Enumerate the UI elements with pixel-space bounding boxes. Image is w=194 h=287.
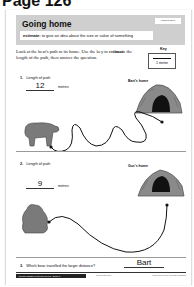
footer-publisher: www.prim-ed.com Prim-Ed Publishing	[153, 274, 186, 276]
question-2-units: metres	[58, 184, 69, 188]
section-divider	[16, 151, 186, 152]
question-number: 3.	[20, 264, 23, 268]
series-badge: HIGHER ORDER THINKING SKILLS - BOOK 2	[16, 274, 86, 278]
instructions: Look at the bear's path to its home. Use…	[16, 49, 136, 61]
question-prompt: Length of path	[26, 76, 50, 80]
page-label: Page 126	[2, 0, 71, 10]
key-label: Key	[160, 47, 167, 51]
key-box: 1 metre	[148, 53, 176, 69]
question-number: 1.	[20, 76, 23, 80]
question-1-label: 1.Length of path	[20, 76, 50, 80]
question-prompt: Which bear travelled the larger distance…	[26, 264, 95, 268]
key-line-sample	[153, 58, 171, 59]
key-unit: 1 metre	[149, 61, 175, 65]
instructions-keyword: estimate	[109, 49, 125, 54]
question-2-label: 2.Length of path	[20, 162, 50, 166]
question-2-answer[interactable]: 9	[26, 179, 54, 189]
title-banner: Going home Mathematics estimate: to give…	[16, 15, 185, 45]
definition-text: to give an idea about the size or value …	[41, 33, 134, 38]
question-prompt: Length of path	[26, 162, 50, 166]
bart-path	[46, 110, 171, 155]
footer: HIGHER ORDER THINKING SKILLS - BOOK 2 97…	[16, 272, 186, 279]
instructions-text: Look at the bear's path to its home. Use…	[16, 49, 109, 54]
question-number: 2.	[20, 162, 23, 166]
question-3-label: 3.Which bear travelled the larger distan…	[20, 264, 95, 268]
gus-path	[46, 200, 176, 255]
definition-term: estimate:	[23, 33, 41, 38]
question-3-answer[interactable]: Bart	[124, 258, 164, 268]
question-1-units: metres	[58, 85, 69, 89]
definition-box: estimate: to give an idea about the size…	[20, 31, 153, 40]
cave-icon	[136, 168, 186, 198]
footer-isbn: 9781 846541630	[96, 274, 111, 276]
worksheet: Going home Mathematics estimate: to give…	[5, 10, 192, 285]
subject-tag: Mathematics	[155, 18, 181, 24]
worksheet-title: Going home	[22, 19, 72, 29]
question-1-answer[interactable]: 12	[26, 81, 54, 91]
